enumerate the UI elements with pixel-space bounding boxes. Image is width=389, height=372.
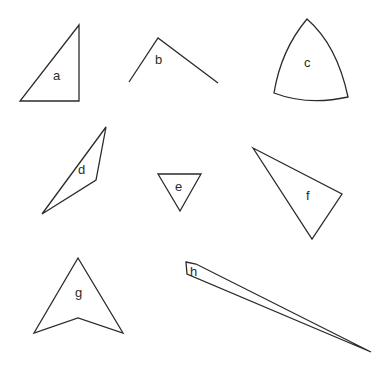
shape-b: b [129, 38, 218, 83]
shape-e-label: e [175, 179, 182, 194]
shape-b-outline [129, 38, 218, 83]
shape-h-outline [186, 262, 371, 352]
shape-h-label: h [190, 264, 197, 279]
shapes-diagram: a b c d e f g h [0, 0, 389, 372]
shape-c-label: c [304, 55, 311, 70]
shape-g: g [34, 258, 123, 333]
shape-d: d [42, 127, 106, 214]
shape-h: h [186, 262, 371, 352]
shape-f-label: f [306, 188, 310, 203]
shape-c: c [274, 19, 348, 101]
shape-f: f [253, 148, 342, 239]
shape-f-outline [253, 148, 342, 239]
shape-a: a [20, 25, 79, 101]
shape-d-label: d [78, 162, 85, 177]
shape-c-outline [274, 19, 348, 101]
shape-a-label: a [53, 68, 61, 83]
shape-e: e [158, 174, 201, 211]
shape-g-label: g [75, 285, 82, 300]
shape-b-label: b [155, 52, 162, 67]
shape-a-outline [20, 25, 79, 101]
shape-d-outline [42, 127, 106, 214]
